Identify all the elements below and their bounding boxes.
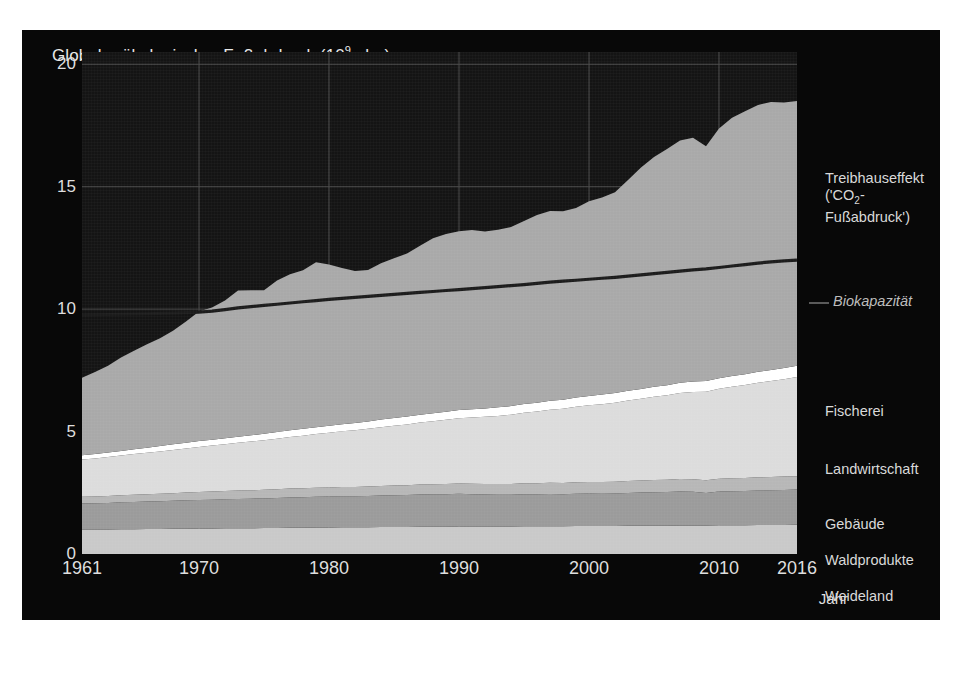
x-tick-label: 1961 bbox=[62, 558, 102, 579]
x-tick-label: 1990 bbox=[439, 558, 479, 579]
legend-label-greenhouse-1: Treibhauseffekt bbox=[825, 170, 924, 186]
legend-label-weideland: Weideland bbox=[825, 588, 893, 605]
legend: Treibhauseffekt ('CO2- Fußabdruck') Biok… bbox=[807, 52, 940, 592]
y-tick-label: 15 bbox=[36, 177, 76, 197]
legend-label-gebaeude: Gebäude bbox=[825, 516, 885, 533]
legend-label-landwirtschaft: Landwirtschaft bbox=[825, 461, 919, 478]
y-tick-label: 10 bbox=[36, 299, 76, 319]
legend-label-biocapacity: Biokapazität bbox=[833, 293, 912, 310]
x-tick-label: 1970 bbox=[179, 558, 219, 579]
legend-label-waldprodukte: Waldprodukte bbox=[825, 552, 914, 569]
x-tick-label: 2000 bbox=[569, 558, 609, 579]
area-chart-svg bbox=[82, 52, 797, 554]
legend-dash-biocapacity bbox=[809, 302, 829, 304]
legend-label-greenhouse-2b: - bbox=[860, 187, 865, 203]
x-tick-label: 1980 bbox=[309, 558, 349, 579]
y-tick-label: 5 bbox=[36, 422, 76, 442]
legend-label-greenhouse-3: Fußabdruck') bbox=[825, 209, 910, 225]
legend-item-greenhouse: Treibhauseffekt ('CO2- Fußabdruck') bbox=[825, 170, 940, 226]
chart-page: Globaler ökologischer Fußabdruck (109 gh… bbox=[0, 0, 962, 678]
y-axis: 05101520 bbox=[32, 52, 76, 554]
legend-label-fischerei: Fischerei bbox=[825, 403, 884, 420]
y-tick-label: 20 bbox=[36, 54, 76, 74]
x-axis: 1961197019801990200020102016 bbox=[82, 558, 842, 588]
figure-panel: Globaler ökologischer Fußabdruck (109 gh… bbox=[22, 30, 940, 620]
x-tick-label: 2010 bbox=[699, 558, 739, 579]
plot-area bbox=[82, 52, 797, 554]
legend-label-greenhouse-2a: ('CO bbox=[825, 187, 854, 203]
area-weideland bbox=[82, 525, 797, 554]
